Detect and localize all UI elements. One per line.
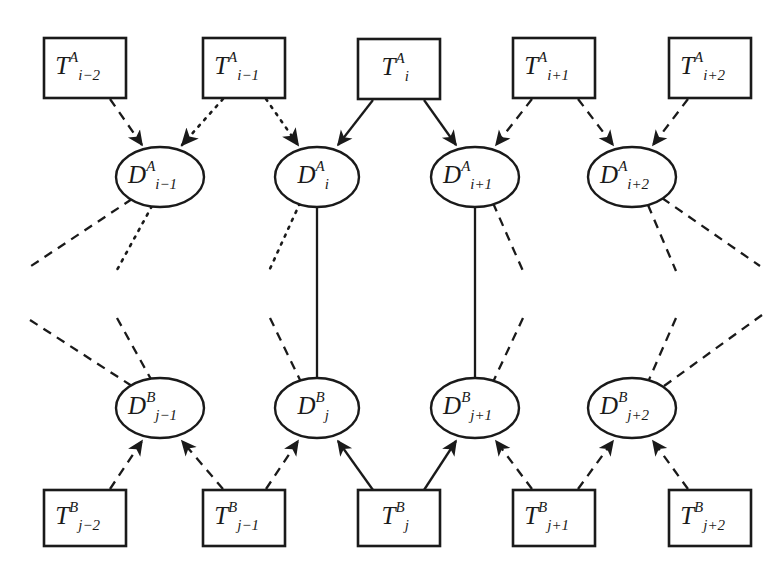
edge-dangling xyxy=(28,199,132,268)
state-node-shape xyxy=(275,378,359,438)
observation-node-a[interactable]: TAi−1 xyxy=(203,38,285,98)
state-node-b[interactable]: DBj+1 xyxy=(431,378,519,438)
edge-observation-to-state xyxy=(110,441,142,489)
figure-canvas: TAi−2TAi−1TAiTAi+1TAi+2DAi−1DAiDAi+1DAi+… xyxy=(0,0,781,580)
observation-node-shape xyxy=(358,490,440,546)
edge-observation-to-state xyxy=(338,100,373,145)
observation-node-a[interactable]: TAi+1 xyxy=(513,38,595,98)
edge-observation-to-state xyxy=(338,441,373,490)
observation-node-shape xyxy=(358,39,440,99)
state-node-a[interactable]: DAi+1 xyxy=(431,147,519,207)
edge-dangling xyxy=(648,318,676,382)
edge-observation-to-state xyxy=(266,441,298,489)
edge-dangling xyxy=(493,203,523,271)
edge-dangling xyxy=(269,203,300,271)
state-node-b[interactable]: DBj+2 xyxy=(588,378,676,438)
edge-observation-to-state xyxy=(424,100,456,145)
edge-observation-to-state xyxy=(653,441,688,489)
edge-observation-to-state xyxy=(424,441,456,490)
observation-node-a[interactable]: TAi−2 xyxy=(44,38,126,98)
graphical-model-diagram: TAi−2TAi−1TAiTAi+1TAi+2DAi−1DAiDAi+1DAi+… xyxy=(0,0,781,580)
state-node-b[interactable]: DBj xyxy=(275,378,359,438)
state-node-shape xyxy=(275,147,359,207)
state-node-b[interactable]: DBj−1 xyxy=(116,378,204,438)
edge-dangling xyxy=(493,318,523,382)
edge-dangling xyxy=(30,320,135,388)
edge-observation-to-state xyxy=(578,99,613,145)
edge-dangling xyxy=(117,206,152,270)
edge-observation-to-state xyxy=(266,99,298,145)
observation-node-a[interactable]: TAi+2 xyxy=(669,38,751,98)
observation-node-b[interactable]: TBj−1 xyxy=(203,490,285,546)
edge-observation-to-state xyxy=(496,441,532,489)
edge-observation-to-state xyxy=(496,99,532,145)
edge-dangling xyxy=(664,315,762,386)
edge-dangling xyxy=(270,318,301,382)
state-node-a[interactable]: DAi+2 xyxy=(588,147,676,207)
observation-node-a[interactable]: TAi xyxy=(358,39,440,99)
edge-dangling xyxy=(662,198,760,266)
state-node-a[interactable]: DAi−1 xyxy=(116,147,204,207)
nodes-group: TAi−2TAi−1TAiTAi+1TAi+2DAi−1DAiDAi+1DAi+… xyxy=(44,38,751,546)
edge-dangling xyxy=(648,205,676,271)
edge-observation-to-state xyxy=(110,99,142,145)
edge-observation-to-state xyxy=(182,441,223,489)
state-node-a[interactable]: DAi xyxy=(275,147,359,207)
edge-observation-to-state xyxy=(578,441,613,489)
edge-observation-to-state xyxy=(653,99,688,145)
observation-node-b[interactable]: TBj−2 xyxy=(44,490,126,546)
observation-node-b[interactable]: TBj xyxy=(358,490,440,546)
observation-node-b[interactable]: TBj+1 xyxy=(513,490,595,546)
observation-node-b[interactable]: TBj+2 xyxy=(669,490,751,546)
edge-dangling xyxy=(117,318,152,381)
edge-observation-to-state xyxy=(182,99,223,145)
